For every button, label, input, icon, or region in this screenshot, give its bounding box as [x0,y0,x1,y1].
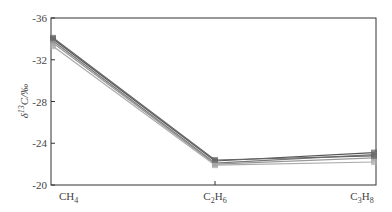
y-tick-label: -28 [32,96,47,108]
data-point-marker [212,157,218,163]
y-tick-label: -20 [32,179,47,191]
data-point-marker [212,162,218,168]
data-point-marker [371,153,377,159]
series-lines [50,35,377,168]
series-line [53,46,374,165]
data-point-marker [371,159,377,165]
data-point-marker [50,35,56,41]
isotope-line-chart: -36-32-28-24-20 CH4C2H6C3H8 δ13C/‰ [0,0,392,212]
series-line [53,43,374,164]
series-line [53,39,374,161]
y-tick-label: -32 [32,54,47,66]
x-category-label: C2H6 [203,190,226,205]
y-axis-title: δ13C/‰ [17,84,30,119]
series-line [53,41,374,163]
y-tick-label: -24 [32,137,47,149]
series-line [53,38,374,160]
x-category-label: C3H8 [350,190,373,205]
data-point-marker [50,43,56,49]
x-category-label: CH4 [59,190,78,205]
y-tick-label: -36 [32,12,47,24]
